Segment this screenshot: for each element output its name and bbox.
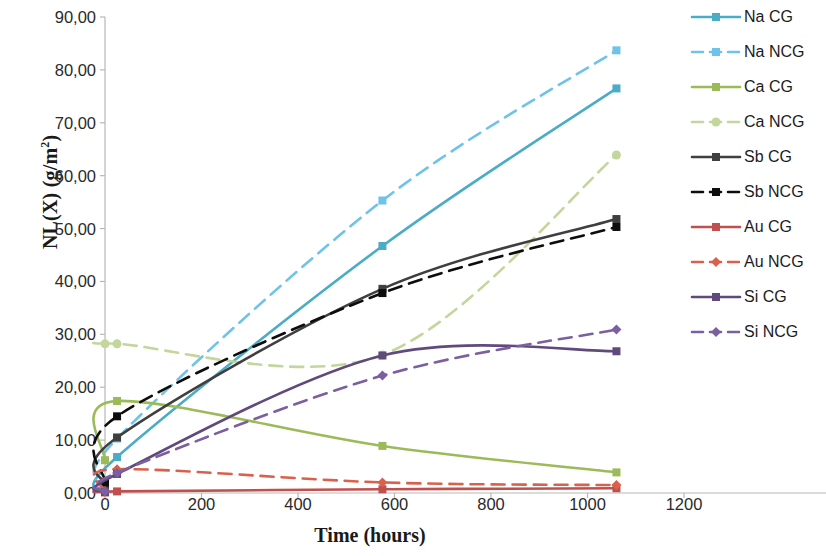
legend-marker <box>712 48 720 56</box>
legend-item-sb-cg[interactable]: Sb CG <box>690 146 826 168</box>
legend-marker <box>712 83 720 91</box>
data-point-marker <box>612 46 620 54</box>
legend-item-au-ncg[interactable]: Au NCG <box>690 251 826 273</box>
series-line <box>93 345 616 492</box>
legend-swatch <box>690 146 742 168</box>
data-point-marker <box>113 487 121 495</box>
data-point-marker <box>378 242 386 250</box>
data-point-marker <box>611 325 621 335</box>
data-point-marker <box>612 151 621 160</box>
x-axis-tick-label: 200 <box>172 496 232 513</box>
legend-swatch <box>690 216 742 238</box>
data-point-marker <box>612 347 620 355</box>
legend-item-na-cg[interactable]: Na CG <box>690 6 826 28</box>
legend-marker <box>712 223 720 231</box>
legend-swatch <box>690 41 742 63</box>
legend-label: Au CG <box>744 217 792 237</box>
x-axis-tick-label: 600 <box>365 496 425 513</box>
x-axis-tick-label: 800 <box>461 496 521 513</box>
data-point-marker <box>378 442 386 450</box>
legend-label: Ca CG <box>744 77 793 97</box>
series-na-cg <box>93 84 620 493</box>
data-point-marker <box>101 339 110 348</box>
legend-label: Na NCG <box>744 42 804 62</box>
x-axis-tick-label: 400 <box>268 496 328 513</box>
line-chart: NL(X) (g/m2) 0,0010,0020,0030,0040,0050,… <box>0 0 826 556</box>
legend-label: Sb NCG <box>744 182 804 202</box>
legend-swatch <box>690 321 742 343</box>
series-na-ncg <box>93 46 620 491</box>
legend-label: Si CG <box>744 287 787 307</box>
data-point-marker <box>113 412 121 420</box>
legend-swatch <box>690 251 742 273</box>
legend-label: Sb CG <box>744 147 792 167</box>
legend-item-si-cg[interactable]: Si CG <box>690 286 826 308</box>
x-axis-tick-label: 1200 <box>654 496 714 513</box>
data-point-marker <box>113 433 121 441</box>
data-point-marker <box>378 351 386 359</box>
legend-swatch <box>690 181 742 203</box>
data-point-marker <box>378 197 386 205</box>
legend-swatch <box>690 76 742 98</box>
data-point-marker <box>612 223 620 231</box>
legend-item-ca-ncg[interactable]: Ca NCG <box>690 111 826 133</box>
series-line <box>93 488 616 492</box>
legend-marker <box>712 293 720 301</box>
legend-marker <box>711 257 721 267</box>
x-axis-title: Time (hours) <box>90 524 650 547</box>
data-point-marker <box>113 453 121 461</box>
data-point-marker <box>101 456 109 464</box>
series-line <box>93 50 616 487</box>
legend: Na CGNa NCGCa CGCa NCGSb CGSb NCGAu CGAu… <box>690 6 826 356</box>
legend-marker <box>712 153 720 161</box>
x-axis-tick-label: 1000 <box>558 496 618 513</box>
legend-swatch <box>690 286 742 308</box>
series-au-cg <box>93 484 620 496</box>
legend-swatch <box>690 111 742 133</box>
legend-item-sb-ncg[interactable]: Sb NCG <box>690 181 826 203</box>
legend-marker <box>712 118 721 127</box>
legend-label: Si NCG <box>744 322 798 342</box>
series-ca-ncg <box>93 151 621 367</box>
data-point-marker <box>612 84 620 92</box>
data-point-marker <box>612 215 620 223</box>
legend-label: Au NCG <box>744 252 804 272</box>
legend-item-na-ncg[interactable]: Na NCG <box>690 41 826 63</box>
data-point-marker <box>113 397 121 405</box>
legend-swatch <box>690 6 742 28</box>
data-point-marker <box>612 468 620 476</box>
legend-item-au-cg[interactable]: Au CG <box>690 216 826 238</box>
data-point-marker <box>113 339 122 348</box>
legend-label: Na CG <box>744 7 793 27</box>
series-line <box>93 88 616 489</box>
legend-marker <box>711 327 721 337</box>
legend-item-ca-cg[interactable]: Ca CG <box>690 76 826 98</box>
legend-label: Ca NCG <box>744 112 804 132</box>
legend-marker <box>712 13 720 21</box>
data-point-marker <box>378 289 386 297</box>
series-line <box>93 155 616 367</box>
series-si-cg <box>93 345 620 496</box>
data-point-marker <box>377 371 387 381</box>
x-axis-tick-labels: 020040060080010001200 <box>0 496 826 522</box>
legend-item-si-ncg[interactable]: Si NCG <box>690 321 826 343</box>
legend-marker <box>712 188 720 196</box>
x-axis-tick-label: 0 <box>75 496 135 513</box>
